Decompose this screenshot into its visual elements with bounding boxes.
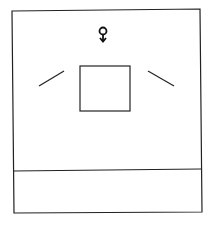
lower-band-divider bbox=[13, 169, 201, 171]
left-angled-line bbox=[39, 71, 64, 86]
diagram-canvas bbox=[0, 0, 213, 227]
right-angled-line bbox=[148, 71, 174, 86]
central-square bbox=[80, 66, 130, 111]
circle-arrow-symbol-icon bbox=[100, 28, 107, 42]
